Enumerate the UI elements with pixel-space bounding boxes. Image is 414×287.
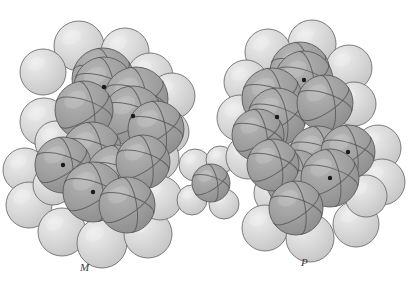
carbon-center-dot [131, 114, 135, 118]
molecular-model-scene [0, 0, 414, 287]
carbon-sphere [99, 177, 155, 233]
carbon-center-dot [91, 190, 95, 194]
carbon-center-dot [102, 85, 106, 89]
carbon-center-dot [302, 78, 306, 82]
carbon-sphere [192, 164, 230, 202]
carbon-center-dot [346, 150, 350, 154]
carbon-sphere [269, 181, 323, 235]
figure-canvas: M P [0, 0, 414, 287]
molecule-label-p: P [301, 256, 308, 268]
carbon-sphere [297, 75, 353, 131]
molecule-label-m: M [80, 261, 90, 273]
carbon-center-dot [61, 163, 65, 167]
carbon-center-dot [275, 115, 279, 119]
carbon-center-dot [328, 176, 332, 180]
hydrogen-sphere [20, 49, 66, 95]
molecule-left-M [3, 21, 195, 268]
molecule-right-P [217, 20, 405, 262]
